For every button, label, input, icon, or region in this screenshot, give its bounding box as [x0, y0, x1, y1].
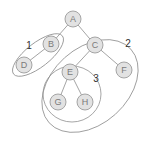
node-e: E	[62, 64, 78, 80]
node-d: D	[16, 57, 32, 73]
node-b-label: B	[48, 39, 54, 49]
node-h-label: H	[82, 97, 89, 107]
edges	[24, 19, 124, 102]
group-2-label: 2	[125, 38, 131, 49]
node-b: B	[43, 36, 59, 52]
node-d-label: D	[21, 60, 28, 70]
node-a: A	[65, 11, 81, 27]
node-c-label: C	[92, 40, 99, 50]
node-c: C	[87, 37, 103, 53]
group-1-outline	[6, 26, 70, 83]
node-e-label: E	[67, 67, 73, 77]
tree-diagram: 1 2 3 A B C D E F G H	[0, 0, 142, 141]
node-f: F	[116, 62, 132, 78]
node-a-label: A	[70, 14, 76, 24]
node-g-label: G	[54, 97, 61, 107]
node-f-label: F	[121, 65, 127, 75]
node-g: G	[50, 94, 66, 110]
group-3-label: 3	[93, 73, 99, 84]
group-1-label: 1	[26, 40, 32, 51]
node-h: H	[77, 94, 93, 110]
